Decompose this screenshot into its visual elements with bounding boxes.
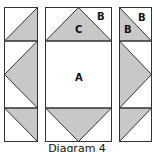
label-b-right-inner: B: [124, 24, 132, 35]
label-b-right-top: B: [138, 12, 146, 23]
left-column: [5, 8, 38, 142]
diagram-caption: Diagram 4: [0, 143, 154, 152]
label-c: C: [75, 24, 82, 35]
label-b-center: B: [97, 11, 105, 22]
label-a: A: [75, 72, 83, 83]
quilt-block-diagram: C B A B B: [0, 0, 154, 152]
